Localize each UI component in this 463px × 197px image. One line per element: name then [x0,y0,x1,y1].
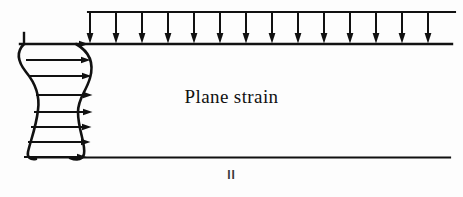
load-arrow-head [191,33,198,44]
load-arrow-head [425,33,432,44]
load-arrow-head [295,33,302,44]
velocity-arrow-head [81,139,91,146]
region-label: II [0,168,463,182]
load-arrow-head [217,33,224,44]
load-arrow-head [139,33,146,44]
load-arrow-head [243,33,250,44]
load-arrow-head [399,33,406,44]
load-arrow-head [165,33,172,44]
load-arrow-head [373,33,380,44]
load-arrow-head [321,33,328,44]
load-arrow-head [347,33,354,44]
load-arrow-head [113,33,120,44]
plane-strain-diagram: Plane strain II [0,0,463,197]
distributed-load-group [87,12,455,44]
load-arrow-head [87,33,94,44]
page-title: Plane strain [0,86,463,108]
velocity-arrow-head [82,124,92,131]
velocity-arrow-head [79,41,89,48]
load-arrow-set [87,12,432,44]
load-arrow-head [269,33,276,44]
velocity-arrow-head [83,109,93,116]
